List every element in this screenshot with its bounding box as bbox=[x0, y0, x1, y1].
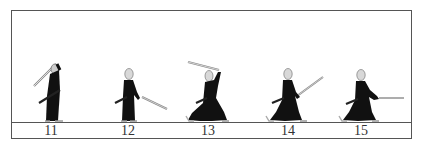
figure-15 bbox=[339, 70, 404, 122]
frame-number-label: 11 bbox=[36, 124, 66, 138]
robe-icon bbox=[343, 81, 379, 121]
figure-14 bbox=[266, 69, 323, 122]
head-icon bbox=[125, 69, 133, 80]
frame-number-label: 12 bbox=[113, 124, 143, 138]
figure-12 bbox=[115, 69, 167, 122]
frame-number-label: 13 bbox=[193, 124, 223, 138]
head-icon bbox=[357, 70, 365, 81]
frame-number-label: 14 bbox=[273, 124, 303, 138]
figure-11 bbox=[34, 64, 63, 121]
robe-icon bbox=[270, 80, 302, 121]
frame-number-label: 15 bbox=[346, 124, 376, 138]
robe-icon bbox=[122, 80, 140, 121]
head-icon bbox=[205, 71, 213, 82]
head-icon bbox=[284, 69, 292, 80]
figure-13 bbox=[186, 62, 229, 121]
